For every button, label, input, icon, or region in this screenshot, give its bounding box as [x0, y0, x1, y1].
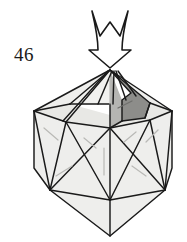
- arrow-outline: [89, 11, 131, 68]
- origami-figure: 46: [0, 0, 187, 242]
- push-arrow: [89, 11, 131, 68]
- polyhedron-lower: [34, 70, 172, 236]
- origami-drawing: [0, 0, 187, 242]
- flap-edge-4: [113, 71, 114, 104]
